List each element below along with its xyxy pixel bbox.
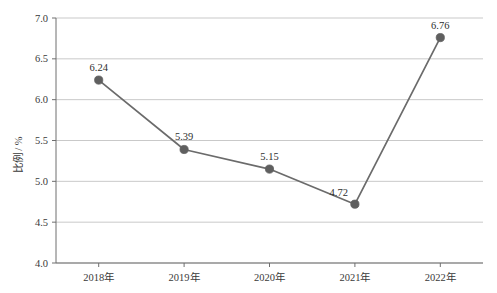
data-point-value-label: 6.76: [431, 20, 449, 31]
chart-canvas: 7.06.56.05.55.04.54.0 6.245.395.154.726.…: [0, 0, 497, 293]
line-chart: 7.06.56.05.55.04.54.0 6.245.395.154.726.…: [0, 0, 497, 293]
y-axis-tick-label: 5.5: [35, 135, 48, 146]
x-axis-category-label: 2018年: [83, 271, 114, 283]
data-point-marker: [351, 200, 359, 208]
y-axis-tick-label: 6.0: [35, 94, 48, 105]
data-point-marker: [95, 76, 103, 84]
data-point-value-label: 5.15: [260, 151, 278, 162]
data-point-value-label: 4.72: [330, 187, 348, 198]
x-axis-category-label: 2021年: [339, 271, 370, 283]
y-axis-tick-label: 4.5: [35, 217, 48, 228]
y-axis-tick-label: 6.5: [35, 53, 48, 64]
data-point-marker: [265, 165, 273, 173]
y-axis-tick-label: 7.0: [35, 13, 48, 24]
x-axis-category-label: 2022年: [425, 271, 456, 283]
data-point-marker: [436, 34, 444, 42]
x-axis-category-label: 2020年: [254, 271, 285, 283]
data-point-value-label: 5.39: [175, 131, 193, 142]
data-point-value-label: 6.24: [90, 62, 109, 73]
data-point-marker: [180, 145, 188, 153]
y-axis-tick-label: 5.0: [35, 176, 48, 187]
y-axis-title: 比例 / %: [12, 136, 24, 173]
x-axis-category-label: 2019年: [169, 271, 200, 283]
y-axis-tick-label: 4.0: [35, 258, 48, 269]
chart-background: [0, 0, 497, 293]
